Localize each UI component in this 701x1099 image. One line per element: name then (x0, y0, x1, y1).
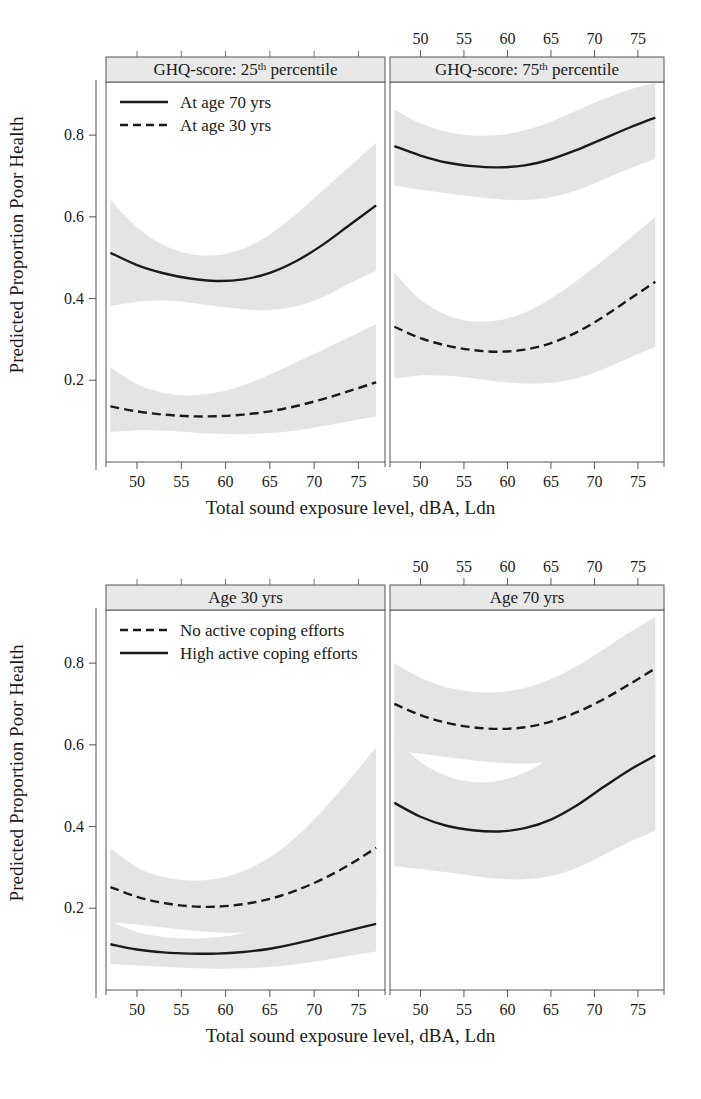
legend-label: At age 70 yrs (180, 93, 271, 112)
confidence-band (110, 324, 376, 434)
bottom-x-axis-title: Total sound exposure level, dBA, Ldn (0, 1025, 701, 1047)
x-tick-label: 55 (456, 473, 472, 490)
x-tick-top-label: 70 (586, 30, 602, 47)
panel-strip-label: Age 70 yrs (490, 588, 565, 607)
x-tick-top-label: 55 (456, 30, 472, 47)
y-tick-label: 0.2 (64, 371, 84, 388)
top-x-axis-title: Total sound exposure level, dBA, Ldn (0, 497, 701, 519)
panel-ghq-score-75th-percentile: GHQ-score: 75th percentile50556065707550… (390, 30, 664, 490)
x-tick-label: 60 (499, 1001, 515, 1018)
y-tick-label: 0.8 (64, 654, 84, 671)
y-tick-label: 0.4 (64, 290, 84, 307)
y-tick-label: 0.2 (64, 899, 84, 916)
top-plot-area: GHQ-score: 25th percentile505560657075GH… (0, 0, 701, 500)
x-tick-label: 65 (262, 473, 278, 490)
x-tick-label: 55 (173, 473, 189, 490)
bottom-plot-area: Age 30 yrs505560657075Age 70 yrs50556065… (0, 528, 701, 1028)
x-tick-top-label: 75 (630, 30, 646, 47)
panel-strip-label: GHQ-score: 75th percentile (435, 60, 619, 79)
x-tick-top-label: 65 (543, 30, 559, 47)
x-tick-label: 70 (586, 473, 602, 490)
legend-label: At age 30 yrs (180, 116, 271, 135)
x-tick-top-label: 50 (412, 30, 428, 47)
x-tick-label: 60 (499, 473, 515, 490)
x-tick-label: 50 (412, 473, 428, 490)
x-tick-label: 75 (350, 1001, 366, 1018)
x-tick-label: 75 (630, 473, 646, 490)
y-tick-label: 0.4 (64, 818, 84, 835)
legend: No active coping effortsHigh active copi… (120, 621, 358, 663)
x-tick-label: 70 (306, 473, 322, 490)
x-tick-top-label: 50 (412, 558, 428, 575)
x-tick-label: 50 (129, 473, 145, 490)
confidence-band (394, 217, 655, 384)
x-tick-label: 70 (586, 1001, 602, 1018)
x-tick-label: 70 (306, 1001, 322, 1018)
x-tick-top-label: 60 (499, 558, 515, 575)
y-tick-label: 0.6 (64, 736, 84, 753)
x-tick-label: 55 (456, 1001, 472, 1018)
confidence-band (394, 83, 655, 200)
x-tick-top-label: 70 (586, 558, 602, 575)
confidence-band (110, 143, 376, 310)
figure-root: Predicted Proportion Poor Health GHQ-sco… (0, 0, 701, 1099)
panel-strip-label: Age 30 yrs (208, 588, 283, 607)
panel-age-70-yrs: Age 70 yrs505560657075505560657075 (390, 558, 664, 1018)
x-tick-top-label: 65 (543, 558, 559, 575)
legend-label: High active coping efforts (180, 644, 358, 663)
x-tick-label: 60 (218, 473, 234, 490)
panel-strip-label: GHQ-score: 25th percentile (153, 60, 337, 79)
x-tick-label: 75 (630, 1001, 646, 1018)
bottom-figure: Predicted Proportion Poor Health Age 30 … (0, 528, 701, 1099)
top-figure: Predicted Proportion Poor Health GHQ-sco… (0, 0, 701, 540)
x-tick-label: 60 (218, 1001, 234, 1018)
x-tick-label: 65 (543, 473, 559, 490)
y-tick-label: 0.6 (64, 208, 84, 225)
y-tick-label: 0.8 (64, 126, 84, 143)
x-tick-label: 55 (173, 1001, 189, 1018)
legend: At age 70 yrsAt age 30 yrs (120, 93, 271, 135)
x-tick-label: 50 (129, 1001, 145, 1018)
legend-label: No active coping efforts (180, 621, 344, 640)
x-tick-label: 65 (543, 1001, 559, 1018)
x-tick-top-label: 55 (456, 558, 472, 575)
x-tick-label: 65 (262, 1001, 278, 1018)
x-tick-top-label: 60 (499, 30, 515, 47)
x-tick-label: 75 (350, 473, 366, 490)
x-tick-label: 50 (412, 1001, 428, 1018)
x-tick-top-label: 75 (630, 558, 646, 575)
